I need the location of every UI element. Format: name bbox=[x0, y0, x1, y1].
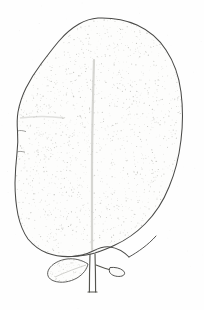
illustration-canvas: Leaf with petiole, stipule and axillary … bbox=[0, 0, 204, 310]
petiole-left-edge bbox=[89, 254, 90, 292]
leaf-illustration bbox=[0, 0, 204, 310]
petiole-right-edge bbox=[95, 254, 96, 292]
